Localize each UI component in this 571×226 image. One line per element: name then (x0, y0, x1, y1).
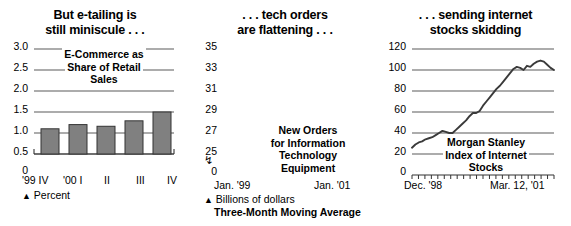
annotation-line: Sales (88, 73, 119, 85)
y-tick-label: 35 (190, 41, 217, 51)
footnote-text: Percent (34, 189, 70, 201)
footnote-etailing: ▲ Percent (22, 189, 70, 201)
x-axis-start-label: Jan. '99 (214, 179, 250, 191)
annotation-line: for Information (269, 137, 348, 149)
axis-break-icon: ↯ (204, 156, 213, 165)
chart-panel-tech-orders: . . . tech orders are flattening . . . 3… (190, 0, 380, 226)
y-tick-label: 33 (190, 62, 217, 72)
panel-title-line: . . . sending internet (380, 8, 571, 23)
y-tick-label: 40 (380, 125, 406, 135)
chart-panel-etailing: But e-tailing is still miniscule . . . 3… (0, 0, 190, 226)
panel-title-line: . . . tech orders (190, 8, 380, 23)
panel-title-line: But e-tailing is (0, 8, 190, 23)
panel-title-line: still miniscule . . . (0, 23, 190, 38)
x-tick-label: '00 I (63, 174, 83, 186)
y-tick-label: 3.0 (0, 41, 28, 51)
y-tick-label: 60 (380, 104, 406, 114)
y-tick-label: 2.0 (0, 83, 28, 93)
annotation-line: Technology (277, 149, 339, 161)
footnote-tech-orders: ▲ Billions of dollars (204, 193, 295, 205)
y-tick-label: 100 (380, 62, 406, 72)
y-tick-label: 2.5 (0, 62, 28, 72)
x-tick-label: '99 IV (22, 174, 49, 186)
y-tick-label: 0 (380, 166, 406, 176)
y-tick-label: 0.5 (0, 146, 28, 156)
panel-title-internet-stocks: . . . sending internet stocks skidding (380, 8, 571, 38)
annotation-etailing: E-Commerce as Share of Retail Sales (34, 48, 174, 86)
y-tick-label: 31 (190, 83, 217, 93)
footnote-text: Billions of dollars (216, 193, 295, 205)
figure-container: But e-tailing is still miniscule . . . 3… (0, 0, 571, 226)
panel-title-line: are flattening . . . (190, 23, 380, 38)
y-tick-label: 20 (380, 146, 406, 156)
annotation-line: E-Commerce as (62, 48, 145, 60)
triangle-marker-icon: ▲ (204, 195, 213, 205)
x-axis-start-label: Dec. '98 (404, 179, 442, 191)
y-tick-label: 1.5 (0, 104, 28, 114)
panel-title-line: stocks skidding (380, 23, 571, 38)
annotation-tech-orders: New Orders for Information Technology Eq… (238, 124, 378, 174)
annotation-line: Equipment (279, 162, 337, 174)
annotation-line: Index of Internet (443, 149, 529, 161)
annotation-line: Morgan Stanley (445, 136, 527, 148)
annotation-line: New Orders (277, 124, 340, 136)
panel-title-tech-orders: . . . tech orders are flattening . . . (190, 8, 380, 38)
y-tick-label: 29 (190, 104, 217, 114)
panel-title-etailing: But e-tailing is still miniscule . . . (0, 8, 190, 38)
y-tick-label: 0 (190, 166, 217, 176)
x-axis-end-label: Jan. '01 (314, 179, 350, 191)
annotation-line: Stocks (467, 161, 505, 173)
x-tick-label: III (136, 174, 145, 186)
footnote-note-tech-orders: Three-Month Moving Average (214, 206, 361, 218)
x-tick-label: IV (167, 174, 177, 186)
chart-panel-internet-stocks: . . . sending internet stocks skidding 1… (380, 0, 571, 226)
y-tick-label: 27 (190, 125, 217, 135)
y-tick-label: 1.0 (0, 125, 28, 135)
x-tick-label: II (104, 174, 110, 186)
y-tick-label: 120 (380, 41, 406, 51)
triangle-marker-icon: ▲ (22, 191, 31, 201)
annotation-line: Share of Retail (65, 61, 143, 73)
x-axis-end-label: Mar. 12, '01 (490, 179, 545, 191)
annotation-internet-stocks: Morgan Stanley Index of Internet Stocks (416, 136, 556, 174)
y-tick-label: 80 (380, 83, 406, 93)
